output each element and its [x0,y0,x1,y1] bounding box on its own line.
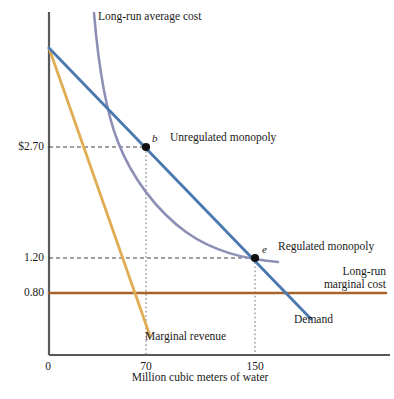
label-unregulated-monopoly: Unregulated monopoly [170,131,276,145]
label-regulated-monopoly: Regulated monopoly [278,240,374,254]
natural-monopoly-chart: $2.70 1.20 0.80 0 70 150 Million cubic m… [0,0,394,399]
label-demand: Demand [294,313,333,327]
label-point-e: e [262,243,267,256]
label-long-run-marginal-cost-line2: marginal cost [252,278,386,292]
label-long-run-marginal-cost-line1: Long-run [252,265,386,279]
marker-point-b [142,143,150,151]
ytick-label-270: $2.70 [0,140,44,154]
ytick-label-120: 1.20 [0,251,44,265]
xtick-label-0: 0 [34,360,62,374]
ytick-label-080: 0.80 [0,286,44,300]
label-long-run-average-cost: Long-run average cost [98,10,201,24]
marker-point-e [251,254,259,262]
label-point-b: b [152,132,158,145]
label-marginal-revenue: Marginal revenue [145,330,226,344]
x-axis-title: Million cubic meters of water [110,371,290,385]
